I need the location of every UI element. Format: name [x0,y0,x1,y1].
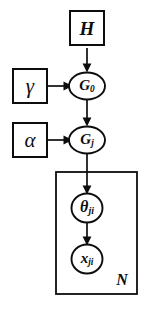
plate-n [56,172,137,294]
node-gj [69,127,105,154]
edge-gj-to-theta [83,153,92,195]
edge-g0-to-gj [83,99,92,127]
node-g0 [69,73,105,100]
node-gamma [13,69,47,103]
graphical-model-figure: H γ G0 α Gj θji xji N [0,0,145,310]
node-h [70,11,104,45]
node-theta-ji [72,194,103,223]
graph-canvas [0,0,145,310]
node-x-ji [72,245,103,274]
edge-h-to-g0 [83,48,92,73]
node-alpha [13,123,47,157]
edge-theta-to-x [83,222,92,246]
